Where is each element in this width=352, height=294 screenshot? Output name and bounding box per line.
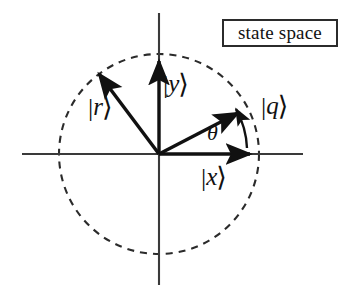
ket-label-x: |x⟩	[201, 163, 228, 190]
ket-bar-x: |	[201, 163, 206, 192]
ket-label-y: |y⟩	[163, 70, 190, 97]
state-space-title-box: state space	[222, 19, 338, 47]
ket-angle-x: ⟩	[216, 162, 227, 192]
ket-angle-r: ⟩	[102, 92, 113, 122]
ket-bar-r: |	[88, 93, 93, 122]
ket-label-q: |q⟩	[261, 92, 289, 119]
ket-angle-y: ⟩	[178, 69, 189, 99]
vector-q	[159, 113, 238, 154]
state-space-figure: state space |r⟩ |y⟩ |q⟩ |x⟩ θ	[0, 0, 352, 294]
ket-bar-q: |	[261, 92, 266, 121]
state-space-title-text: state space	[224, 21, 336, 45]
ket-bar-y: |	[163, 70, 168, 99]
ket-angle-q: ⟩	[278, 91, 289, 121]
ket-label-r: |r⟩	[88, 93, 114, 120]
theta-symbol-label: θ	[207, 122, 218, 144]
ket-letter-q: q	[266, 92, 279, 119]
